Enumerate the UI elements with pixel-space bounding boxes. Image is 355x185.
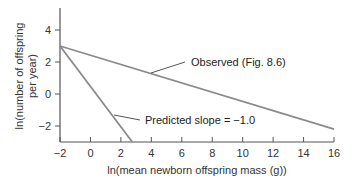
observed-leader bbox=[151, 62, 185, 73]
y-tick-label: 0 bbox=[45, 88, 51, 100]
predicted-annotation: Predicted slope = −1.0 bbox=[145, 114, 255, 126]
chart: −20246810121416 420−2 Observed (Fig. 8.6… bbox=[0, 0, 355, 185]
y-axis-label-line2: per year) bbox=[26, 54, 38, 98]
observed-annotation: Observed (Fig. 8.6) bbox=[191, 56, 286, 68]
x-tick-label: 0 bbox=[87, 147, 93, 159]
y-ticks: 420−2 bbox=[38, 24, 60, 132]
y-tick-label: 4 bbox=[45, 24, 51, 36]
y-axis-label-line1: ln(number of offspring bbox=[13, 23, 25, 130]
x-tick-label: 10 bbox=[237, 147, 249, 159]
x-tick-label: 16 bbox=[328, 147, 340, 159]
x-tick-label: 12 bbox=[267, 147, 279, 159]
x-tick-label: −2 bbox=[54, 147, 67, 159]
x-tick-label: 14 bbox=[297, 147, 309, 159]
x-tick-label: 2 bbox=[118, 147, 124, 159]
y-tick-label: −2 bbox=[38, 120, 51, 132]
predicted-leader bbox=[114, 115, 140, 120]
x-axis-label: ln(mean newborn offspring mass (g)) bbox=[107, 164, 287, 176]
x-tick-label: 4 bbox=[148, 147, 154, 159]
y-tick-label: 2 bbox=[45, 56, 51, 68]
x-tick-label: 8 bbox=[209, 147, 215, 159]
x-ticks: −20246810121416 bbox=[54, 137, 340, 159]
x-tick-label: 6 bbox=[179, 147, 185, 159]
predicted-line bbox=[60, 46, 132, 142]
